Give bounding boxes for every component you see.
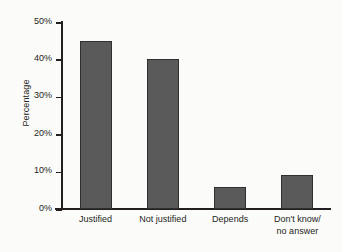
y-axis-tick-mark — [56, 134, 62, 136]
y-axis-tick-label: 20% — [34, 128, 52, 138]
bar — [214, 187, 246, 209]
x-axis-category-label-line: Not justified — [139, 214, 186, 224]
x-axis-category-label-line: Depends — [212, 214, 248, 224]
y-axis-tick-mark — [56, 172, 62, 174]
y-axis-title: Percentage — [21, 63, 31, 143]
y-axis-tick-mark — [56, 59, 62, 61]
y-axis-tick-mark — [56, 97, 62, 99]
x-axis-category-label: Don't know/no answer — [249, 214, 342, 237]
y-axis-tick-label: 10% — [34, 165, 52, 175]
y-axis-tick-mark — [56, 209, 62, 211]
x-axis-category-label-line: Don't know/ — [274, 214, 321, 224]
bar — [147, 59, 179, 209]
x-axis-category-label-line: Justified — [79, 214, 112, 224]
bar — [80, 41, 112, 209]
bar-chart: Percentage 50%40%30%20%10%0% JustifiedNo… — [0, 0, 342, 252]
bar — [281, 175, 313, 209]
y-axis-tick-label: 0% — [39, 203, 52, 213]
x-axis-category-label-line: no answer — [249, 226, 342, 238]
plot-area: 50%40%30%20%10%0% — [62, 22, 331, 209]
y-axis-tick-mark — [56, 22, 62, 24]
y-axis-tick-label: 50% — [34, 16, 52, 26]
y-axis-tick-label: 30% — [34, 90, 52, 100]
y-axis-tick-label: 40% — [34, 53, 52, 63]
